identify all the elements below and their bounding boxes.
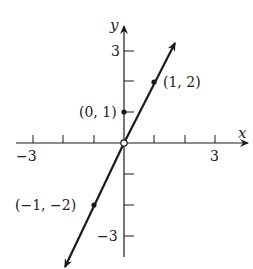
x-min-label: −3 — [16, 148, 37, 164]
point-0-1 — [121, 109, 126, 114]
point-label-1-2: (1, 2) — [163, 74, 201, 90]
line-upper — [124, 43, 175, 143]
x-max-label: 3 — [210, 148, 219, 164]
point-label-neg1-neg2: (−1, −2) — [15, 197, 76, 213]
graph: y x 3 −3 −3 3 (0, 1) (1, 2) (−1, −2) — [0, 0, 253, 269]
x-axis-label: x — [238, 124, 247, 142]
point-1-2 — [151, 79, 156, 84]
open-circle-origin — [121, 140, 127, 146]
point-label-0-1: (0, 1) — [79, 104, 117, 120]
point-neg1-neg2 — [91, 202, 96, 207]
y-axis-label: y — [109, 16, 119, 34]
y-min-label: −3 — [97, 228, 118, 244]
y-max-label: 3 — [111, 43, 120, 59]
